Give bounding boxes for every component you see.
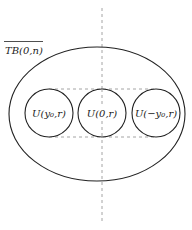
circle-right-label: U(−y₀,r) [135,108,177,119]
circle-left-label: U(y₀,r) [32,108,66,119]
diagram-canvas: TB(0,n) U(y₀,r) U(0,r) U(−y₀,r) [0,0,192,230]
circle-middle-label: U(0,r) [87,108,118,119]
set-title-label: TB(0,n) [5,45,43,56]
